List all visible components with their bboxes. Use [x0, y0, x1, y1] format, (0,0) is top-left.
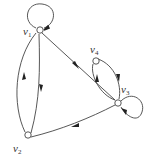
arrow-v3-loop: [121, 108, 127, 115]
edge-v3-loop: [121, 96, 143, 118]
node-v3: [115, 100, 121, 106]
label-v3: v3: [121, 84, 129, 97]
edge-v2-v1: [17, 33, 36, 132]
node-v2: [25, 132, 31, 138]
edge-v1-v2: [31, 34, 39, 133]
label-v1: v1: [23, 26, 31, 39]
label-v2-sub: 2: [18, 148, 22, 156]
label-v4-sub: 4: [95, 49, 99, 57]
node-v1: [37, 27, 43, 33]
label-v3-sub: 3: [126, 89, 130, 97]
arrowheads: [22, 26, 127, 127]
arrow-v2-v1: [22, 72, 26, 80]
edge-v1-v3: [42, 33, 115, 100]
arrow-v1-v2: [39, 84, 43, 92]
label-v4: v4: [90, 44, 98, 57]
edge-v4-v3: [98, 59, 120, 99]
arrow-v3-v4: [95, 74, 99, 82]
label-v2: v2: [13, 143, 21, 156]
edge-v3-v2: [31, 105, 115, 137]
directed-graph: [0, 0, 146, 162]
edge-v1-loop: [27, 4, 53, 28]
node-v4: [93, 58, 99, 64]
arrow-v1-v3: [72, 61, 79, 69]
label-v1-sub: 1: [28, 31, 32, 39]
